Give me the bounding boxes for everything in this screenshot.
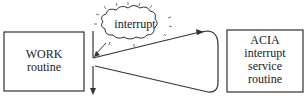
- work-routine-label: WORK routine: [4, 48, 84, 74]
- acia-line4: routine: [227, 73, 303, 86]
- interrupt-cloud-label: interrupt: [105, 18, 165, 31]
- down-arrow-icon: [90, 88, 96, 95]
- interrupt-flow-diagram: WORK routine ACIA interrupt service rout…: [0, 0, 307, 108]
- acia-isr-label: ACIA interrupt service routine: [227, 34, 303, 86]
- work-subtitle: routine: [4, 61, 84, 74]
